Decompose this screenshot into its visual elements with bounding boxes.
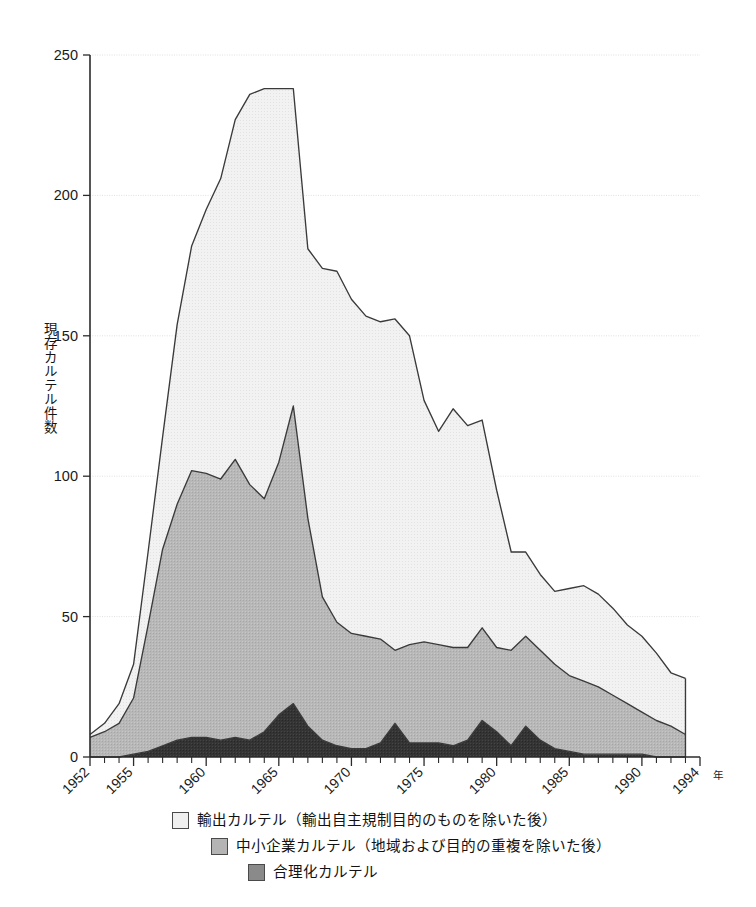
legend-swatch-sme-cartel (211, 838, 228, 855)
x-tick-label-1955: 1955 (102, 764, 135, 797)
y-tick-label-150: 150 (54, 328, 78, 344)
legend-swatch-export-cartel (172, 812, 189, 829)
legend-swatch-rationalization-cartel (248, 864, 265, 881)
x-tick-label-1960: 1960 (175, 764, 208, 797)
y-tick-label-100: 100 (54, 468, 78, 484)
x-tick-label-1994: 1994 (669, 764, 702, 797)
x-tick-label-group: 1952195519601965197019751980198519901994 (59, 764, 702, 797)
x-tick-label-1965: 1965 (248, 764, 281, 797)
legend-label-rationalization-cartel: 合理化カルテル (273, 865, 378, 880)
legend-item-export-cartel: 輸出カルテル（輸出自主規制目的のものを除いた後） (0, 812, 756, 829)
y-tick-label-50: 50 (62, 609, 78, 625)
x-tick-label-1980: 1980 (465, 764, 498, 797)
x-tick-label-1970: 1970 (320, 764, 353, 797)
x-axis-unit-label: 年 (713, 769, 723, 781)
y-tick-group: 050100150200250 (54, 47, 90, 765)
x-tick-label-1990: 1990 (611, 764, 644, 797)
legend-label-export-cartel: 輸出カルテル（輸出自主規制目的のものを除いた後） (197, 813, 557, 828)
chart-legend: 輸出カルテル（輸出自主規制目的のものを除いた後） 中小企業カルテル（地域および目… (0, 812, 756, 890)
area-series-group (90, 89, 685, 757)
x-tick-label-1975: 1975 (393, 764, 426, 797)
chart-figure: 現存カルテル件数 050100150200250 (0, 0, 756, 907)
x-tick-label-1952: 1952 (59, 764, 92, 797)
y-tick-label-250: 250 (54, 47, 78, 63)
y-tick-label-200: 200 (54, 187, 78, 203)
stacked-area-chart: 050100150200250 195219551960196519701975… (0, 0, 756, 907)
y-tick-label-0: 0 (70, 749, 78, 765)
legend-item-sme-cartel: 中小企業カルテル（地域および目的の重複を除いた後） (0, 838, 756, 855)
legend-label-sme-cartel: 中小企業カルテル（地域および目的の重複を除いた後） (236, 839, 611, 854)
legend-item-rationalization-cartel: 合理化カルテル (0, 864, 756, 881)
x-tick-group (90, 757, 700, 766)
x-tick-label-1985: 1985 (538, 764, 571, 797)
